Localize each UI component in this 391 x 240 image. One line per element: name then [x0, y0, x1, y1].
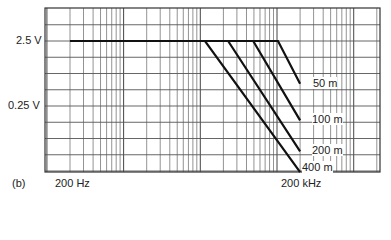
series-label-100m: 100 m — [312, 113, 343, 125]
y-tick-label-top: 2.5 V — [16, 34, 42, 46]
y-tick-label-mid: 0.25 V — [8, 99, 40, 111]
x-tick-label-right: 200 kHz — [281, 177, 321, 189]
series-line-100m — [70, 41, 300, 120]
panel-label: (b) — [12, 177, 25, 189]
data-series — [70, 41, 300, 172]
series-label-200m: 200 m — [312, 144, 343, 156]
series-label-50m: 50 m — [313, 77, 337, 89]
x-tick-label-left: 200 Hz — [55, 177, 90, 189]
series-label-400m: 400 m — [302, 161, 333, 173]
